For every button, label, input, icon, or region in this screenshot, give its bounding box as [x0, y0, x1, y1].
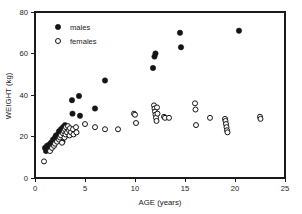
- data-point-female: [83, 122, 88, 127]
- data-point-female: [116, 127, 121, 132]
- x-tick-label: 10: [131, 184, 139, 193]
- y-tick-label: 0: [24, 174, 28, 183]
- y-tick-label: 20: [20, 132, 28, 141]
- data-point-female: [193, 101, 198, 106]
- series-females: [42, 101, 264, 164]
- data-point-male: [92, 106, 97, 111]
- data-point-female: [193, 107, 198, 112]
- data-point-female: [74, 130, 79, 135]
- x-tick-label: 15: [181, 184, 189, 193]
- data-point-female: [258, 116, 263, 121]
- legend-label-females: females: [70, 37, 97, 46]
- y-axis-label: WEIGHT (kg): [4, 72, 13, 119]
- data-point-female: [155, 111, 160, 116]
- data-point-female: [74, 125, 79, 130]
- data-point-male: [77, 113, 82, 118]
- data-point-male: [76, 93, 81, 98]
- data-point-female: [155, 105, 160, 110]
- data-point-female: [208, 115, 213, 120]
- data-point-female: [167, 115, 172, 120]
- data-point-female: [194, 123, 199, 128]
- data-point-female: [225, 130, 230, 135]
- data-point-male: [150, 65, 155, 70]
- data-point-male: [69, 97, 74, 102]
- data-points: [42, 28, 264, 164]
- scatter-plot-figure: 0204060800510152025 malesfemales AGE (ye…: [0, 0, 302, 214]
- data-point-male: [70, 111, 75, 116]
- data-point-female: [134, 121, 139, 126]
- y-tick-label: 60: [20, 49, 28, 58]
- x-tick-label: 20: [231, 184, 239, 193]
- data-point-male: [236, 28, 241, 33]
- data-point-male: [178, 45, 183, 50]
- data-point-female: [133, 112, 138, 117]
- plot-canvas: 0204060800510152025 malesfemales AGE (ye…: [0, 0, 302, 214]
- data-point-female: [93, 125, 98, 130]
- legend-marker-females: [56, 39, 61, 44]
- x-tick-label: 5: [83, 184, 87, 193]
- data-point-female: [42, 159, 47, 164]
- data-point-female: [154, 118, 159, 123]
- data-point-male: [177, 30, 182, 35]
- y-tick-label: 40: [20, 91, 28, 100]
- legend-label-males: males: [70, 23, 90, 32]
- y-tick-label: 80: [20, 8, 28, 17]
- x-tick-label: 25: [281, 184, 289, 193]
- x-tick-label: 0: [33, 184, 37, 193]
- legend-marker-males: [55, 24, 60, 29]
- x-axis-label: AGE (years): [139, 198, 182, 207]
- data-point-female: [103, 127, 108, 132]
- data-point-female: [60, 140, 65, 145]
- axis-tick-labels: 0204060800510152025: [20, 8, 290, 193]
- legend: malesfemales: [55, 23, 96, 46]
- data-point-male: [153, 51, 158, 56]
- data-point-male: [102, 78, 107, 83]
